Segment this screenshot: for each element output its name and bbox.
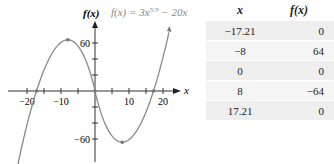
x-tick-label: −10 — [53, 96, 69, 107]
data-point — [93, 89, 97, 93]
data-point — [35, 89, 39, 93]
table-row: 17.210 — [206, 101, 334, 121]
header-fx: f(x) — [274, 0, 334, 21]
function-label: f(x) = 3x5/3 − 20x — [111, 6, 187, 19]
curve-end-arrow-icon — [167, 26, 172, 32]
table-row: 8−64 — [206, 81, 334, 101]
values-table: x f(x) −17.210 −864 00 8−64 17.210 — [206, 0, 334, 121]
table-row: 00 — [206, 61, 334, 81]
x-axis-label: x — [183, 84, 189, 96]
data-point — [152, 89, 156, 93]
y-axis-arrow-icon — [92, 21, 98, 28]
y-axis-label: f(x) — [83, 7, 100, 20]
table-row: −17.210 — [206, 21, 334, 41]
header-x: x — [206, 0, 274, 21]
data-point — [66, 38, 70, 42]
y-tick-label: 60 — [80, 38, 90, 49]
table-row: −864 — [206, 41, 334, 61]
x-tick-label: 20 — [158, 96, 168, 107]
y-tick-label: −60 — [74, 134, 90, 145]
x-tick-label: 10 — [124, 96, 134, 107]
x-axis-arrow-icon — [173, 88, 181, 94]
function-plot: −20−101020 −6060 x f(x) f(x) = 3x5/3 − 2… — [0, 0, 200, 164]
data-point — [120, 140, 124, 144]
